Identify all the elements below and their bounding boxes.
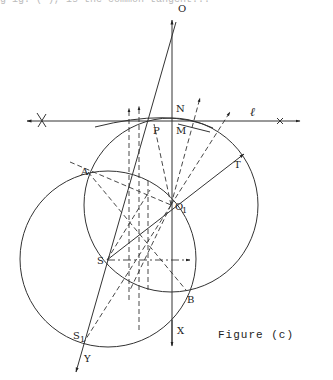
figure-caption: Figure (c): [218, 329, 294, 341]
geometry-diagram: O N P M ℓ T A O 1 S B S 1 X Y Figure (c): [0, 0, 333, 380]
label-N: N: [176, 103, 185, 114]
label-A: A: [80, 166, 89, 177]
label-S1: S: [73, 330, 80, 341]
cross-mark-left: [37, 113, 46, 127]
label-O: O: [178, 3, 186, 14]
dashed-O1-up1: [171, 98, 200, 205]
dashed-S-mid: [107, 190, 150, 260]
label-S: S: [97, 255, 104, 266]
label-B: B: [187, 294, 194, 305]
dashed-A-B: [88, 172, 186, 290]
label-l: ℓ: [250, 105, 255, 119]
label-Y: Y: [83, 353, 91, 364]
line-OY: [76, 22, 176, 372]
label-T: T: [234, 159, 241, 170]
label-O1-subscript: 1: [182, 206, 187, 215]
dashed-O1-S1: [84, 205, 171, 342]
label-S1-subscript: 1: [80, 335, 85, 344]
dashed-O1-P: [154, 124, 171, 205]
label-M: M: [176, 125, 186, 136]
label-P: P: [153, 125, 160, 136]
label-X: X: [177, 325, 185, 336]
